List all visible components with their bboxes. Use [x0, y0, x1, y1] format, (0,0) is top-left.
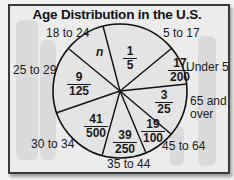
label-under-5: Under 5: [186, 61, 229, 74]
label-18-to-24: 18 to 24: [46, 27, 89, 40]
fraction-5-to-17: 1 5: [123, 45, 137, 72]
label-45-to-64: 45 to 64: [162, 140, 205, 153]
label-30-to-34: 30 to 34: [31, 138, 74, 151]
label-5-to-17: 5 to 17: [163, 27, 200, 40]
label-35-to-44: 35 to 44: [107, 158, 150, 171]
fraction-30-to-34: 41 500: [84, 113, 108, 140]
fraction-under-5: 17 200: [168, 57, 192, 84]
chart-title: Age Distribution in the U.S.: [0, 7, 234, 22]
fraction-65-and-over: 3 25: [155, 89, 173, 116]
label-25-to-29: 25 to 29: [13, 64, 56, 77]
fraction-18-to-24: n: [96, 46, 103, 59]
fraction-35-to-44: 39 250: [113, 129, 137, 156]
fraction-25-to-29: 9 125: [67, 71, 91, 98]
label-65-and-over-line2: over: [190, 108, 213, 121]
fraction-45-to-64: 19 100: [141, 118, 165, 145]
